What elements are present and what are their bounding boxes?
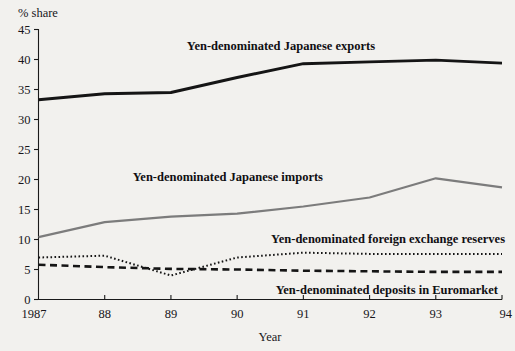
y-tick-label: 35: [18, 83, 31, 97]
y-tick-label: 45: [18, 23, 31, 37]
y-tick-label: 10: [18, 233, 31, 247]
x-axis-title: Year: [258, 330, 282, 344]
x-tick-label: 94: [500, 307, 513, 321]
y-tick-label: 5: [24, 263, 30, 277]
y-axis-ticks: [34, 30, 39, 300]
series-line: [39, 60, 503, 100]
x-tick-label: 91: [297, 307, 310, 321]
series-annotations: Yen-denominated Japanese exportsYen-deno…: [133, 39, 505, 297]
series-line: [39, 265, 503, 272]
y-axis-tick-labels: 051015202530354045: [18, 23, 31, 307]
y-tick-label: 20: [18, 173, 31, 187]
chart-container: % share 051015202530354045 1987888990919…: [0, 0, 515, 351]
x-tick-label: 93: [430, 307, 443, 321]
series-annotation-label: Yen-denominated Japanese imports: [133, 170, 323, 184]
series-annotation-label: Yen-denominated deposits in Euromarket: [276, 283, 499, 297]
y-tick-label: 0: [24, 293, 30, 307]
line-chart: % share 051015202530354045 1987888990919…: [0, 0, 515, 351]
x-tick-label: 90: [231, 307, 244, 321]
y-tick-label: 30: [18, 113, 31, 127]
x-tick-label: 1987: [22, 307, 47, 321]
y-tick-label: 40: [18, 53, 31, 67]
x-axis-tick-labels: 198788899091929394: [22, 307, 513, 321]
y-tick-label: 25: [18, 143, 31, 157]
x-tick-label: 88: [98, 307, 111, 321]
series-annotation-label: Yen-denominated Japanese exports: [187, 39, 375, 53]
y-tick-label: 15: [18, 203, 31, 217]
series-annotation-label: Yen-denominated foreign exchange reserve…: [271, 232, 505, 246]
y-axis-unit-label: % share: [18, 6, 58, 20]
x-tick-label: 92: [363, 307, 376, 321]
series-line: [39, 178, 503, 237]
x-tick-label: 89: [165, 307, 178, 321]
